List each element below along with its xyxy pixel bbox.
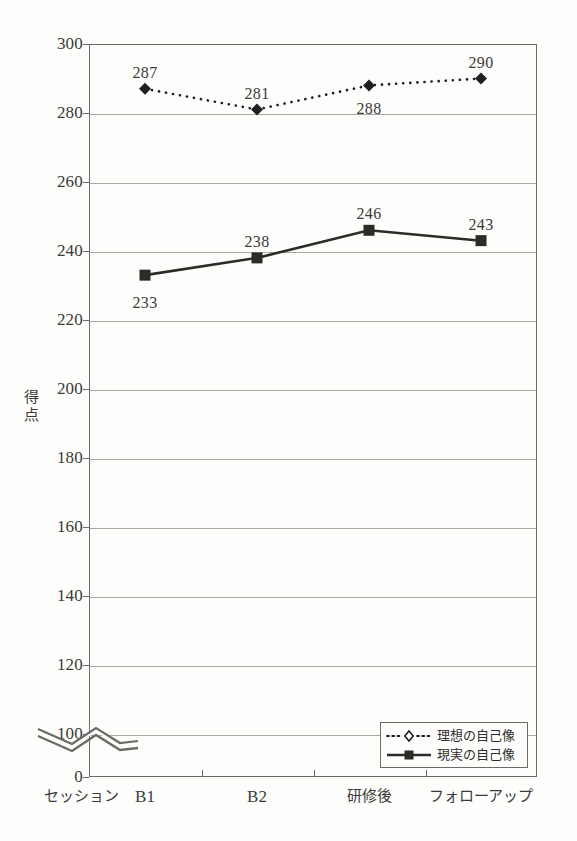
data-label: 238 [245,234,270,250]
legend-key-solid-square-icon [385,747,433,763]
y-tick-label-220: 220 [37,311,83,328]
data-label: 287 [133,65,158,81]
data-label: 288 [357,101,382,117]
legend-item-ideal: 理想の自己像 [385,726,523,745]
x-category-label: B2 [247,788,267,805]
data-label: 281 [245,86,270,102]
x-category-label: フォローアップ [429,788,533,805]
y-axis-ticks: 0100120140160180200220240260280300 [0,0,83,841]
legend-item-real: 現実の自己像 [385,745,523,764]
y-tick-label-180: 180 [37,449,83,466]
y-tick-label-260: 260 [37,173,83,190]
data-label: 233 [133,295,158,311]
chart-figure: 得 点 0100120140160180200220240260280300 2… [0,0,577,841]
data-point-marker [251,104,263,116]
data-label: 243 [469,217,494,233]
series-layer [89,44,537,777]
y-tick-label-300: 300 [37,35,83,52]
y-tick-label-140: 140 [37,587,83,604]
y-tick-label-200: 200 [37,380,83,397]
data-label: 246 [357,206,382,222]
y-tick-label-240: 240 [37,242,83,259]
legend-label-ideal: 理想の自己像 [433,728,515,744]
x-category-label: B1 [135,788,155,805]
data-point-marker [475,73,487,85]
data-point-marker [476,235,487,246]
series-line-0 [145,79,481,110]
legend-label-real: 現実の自己像 [433,747,515,763]
data-label: 290 [469,55,494,71]
y-tick-mark-0 [83,777,89,778]
data-point-marker [140,270,151,281]
x-axis-name: セッション [44,788,119,805]
data-point-marker [364,225,375,236]
y-tick-label-280: 280 [37,104,83,121]
y-tick-label-120: 120 [37,656,83,673]
y-tick-label-0: 0 [37,768,83,785]
y-tick-label-160: 160 [37,518,83,535]
legend-key-dotted-diamond-icon [385,728,433,744]
data-point-marker [139,83,151,95]
data-point-marker [252,252,263,263]
x-category-label: 研修後 [347,788,392,805]
series-line-1 [145,230,481,275]
y-tick-label-100: 100 [37,725,83,742]
chart-legend: 理想の自己像 現実の自己像 [380,722,528,768]
data-point-marker [363,79,375,91]
